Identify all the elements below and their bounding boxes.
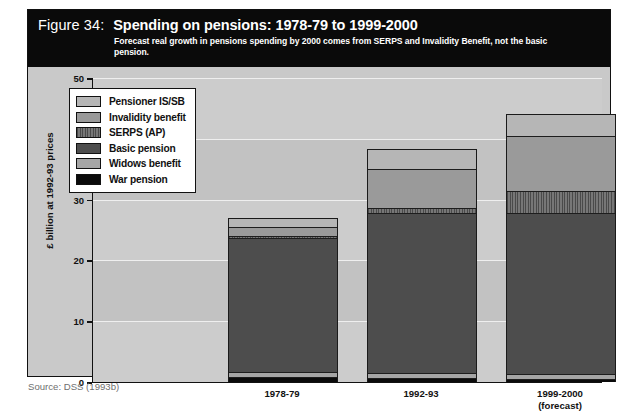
y-tick-label: 10: [73, 316, 84, 327]
bar-segment[interactable]: [229, 378, 337, 382]
source-note: Source: DSS (1993b): [28, 381, 119, 392]
y-tick-label: 50: [73, 73, 84, 84]
figure-title-band: Figure 34: Spending on pensions: 1978-79…: [28, 10, 610, 67]
legend-item-5[interactable]: War pension: [76, 172, 186, 188]
bar-segment[interactable]: [229, 219, 337, 228]
bar-segment[interactable]: [368, 170, 476, 210]
x-tick-label: 1999-2000(forecast): [480, 388, 618, 412]
y-axis-title: £ billion at 1992-93 prices: [44, 101, 55, 281]
bar-segment[interactable]: [368, 150, 476, 169]
legend-label: SERPS (AP): [109, 127, 165, 138]
bar-segment[interactable]: [368, 214, 476, 374]
x-tick-label: 1992-93: [341, 388, 501, 400]
legend-swatch-icon: [76, 158, 101, 169]
figure-title: Spending on pensions: 1978-79 to 1999-20…: [113, 17, 417, 33]
bar-segment[interactable]: [229, 228, 337, 237]
figure-frame: Figure 34: Spending on pensions: 1978-79…: [27, 9, 611, 377]
legend-label: Invalidity benefit: [109, 112, 186, 123]
legend-swatch-icon: [76, 143, 101, 154]
title-line: Figure 34: Spending on pensions: 1978-79…: [38, 17, 600, 33]
bar-segment[interactable]: [507, 214, 615, 375]
bar-1999-2000[interactable]: [506, 114, 616, 382]
bar-segment[interactable]: [368, 379, 476, 382]
plot-region: £ billion at 1992-93 prices 01020304050 …: [28, 67, 610, 377]
legend-item-1[interactable]: Invalidity benefit: [76, 110, 186, 126]
y-tick-label: 30: [73, 194, 84, 205]
bar-segment[interactable]: [507, 137, 615, 192]
legend-item-4[interactable]: Widows benefit: [76, 156, 186, 172]
bar-1992-93[interactable]: [367, 149, 477, 382]
legend-swatch-icon: [76, 112, 101, 123]
figure-number: Figure 34:: [38, 17, 104, 33]
legend-label: Basic pension: [109, 143, 175, 154]
legend-label: Widows benefit: [109, 158, 181, 169]
legend-item-2[interactable]: SERPS (AP): [76, 125, 186, 141]
bar-segment[interactable]: [507, 380, 615, 382]
bar-segment[interactable]: [229, 239, 337, 373]
y-tick-label: 20: [73, 255, 84, 266]
legend-swatch-icon: [76, 96, 101, 107]
legend: Pensioner IS/SBInvalidity benefitSERPS (…: [69, 88, 196, 193]
bar-1978-79[interactable]: [228, 218, 338, 382]
legend-swatch-icon: [76, 127, 101, 138]
x-tick-label: 1978-79: [202, 388, 362, 400]
legend-item-0[interactable]: Pensioner IS/SB: [76, 94, 186, 110]
legend-item-3[interactable]: Basic pension: [76, 141, 186, 157]
bar-segment[interactable]: [507, 192, 615, 214]
bar-segment[interactable]: [507, 115, 615, 136]
legend-label: War pension: [109, 174, 168, 185]
figure-page: Figure 34: Spending on pensions: 1978-79…: [0, 0, 618, 412]
legend-label: Pensioner IS/SB: [109, 96, 185, 107]
figure-subtitle: Forecast real growth in pensions spendin…: [114, 36, 584, 58]
legend-swatch-icon: [76, 174, 101, 185]
